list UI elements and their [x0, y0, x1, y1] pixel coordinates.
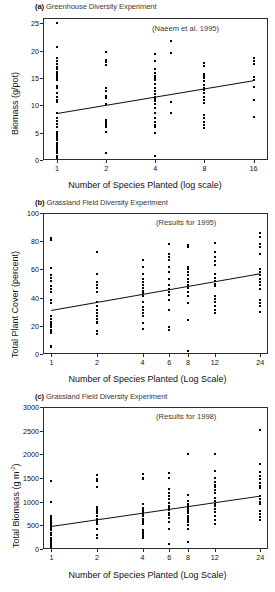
data-point — [96, 251, 98, 253]
data-point — [187, 271, 189, 273]
data-point — [142, 284, 144, 286]
panel-b-title: (b) Grassland Field Diversity Experiment — [35, 198, 168, 207]
panel-b-xtick — [215, 354, 216, 357]
data-point — [56, 126, 58, 128]
data-point — [214, 481, 216, 483]
data-point — [96, 330, 98, 332]
data-point — [187, 494, 189, 496]
data-point — [154, 100, 156, 102]
data-point — [168, 291, 170, 293]
data-point — [214, 470, 216, 472]
data-point — [50, 332, 52, 334]
data-point — [214, 497, 216, 499]
data-point — [50, 346, 52, 348]
data-point — [168, 329, 170, 331]
data-point — [105, 90, 107, 92]
data-point — [168, 521, 170, 523]
data-point — [105, 87, 107, 89]
data-point — [154, 83, 156, 85]
data-point — [170, 40, 172, 42]
panel-c-plot-area — [43, 407, 268, 549]
data-point — [142, 315, 144, 317]
data-point — [214, 298, 216, 300]
panel-b-xtick — [97, 354, 98, 357]
data-point — [187, 281, 189, 283]
data-point — [168, 266, 170, 268]
panel-a-xtick-label: 4 — [143, 164, 167, 173]
data-point — [96, 512, 98, 514]
data-point — [214, 305, 216, 307]
panel-b-ytick-label: 40 — [1, 294, 39, 303]
data-point — [105, 152, 107, 154]
data-point — [168, 294, 170, 296]
data-point — [187, 512, 189, 514]
data-point — [168, 502, 170, 504]
data-point — [203, 127, 205, 129]
data-point — [96, 333, 98, 335]
data-point — [96, 528, 98, 530]
panel-b-plot-area — [43, 213, 268, 354]
data-point — [214, 489, 216, 491]
panel-c-ylabel-tail: ) — [11, 463, 21, 466]
data-point — [214, 264, 216, 266]
panel-a-xtick-label: 2 — [94, 164, 118, 173]
data-point — [253, 63, 255, 65]
panel-a-ytick — [40, 78, 43, 79]
data-point — [56, 63, 58, 65]
data-point — [253, 86, 255, 88]
data-point — [105, 126, 107, 128]
data-point — [56, 22, 58, 24]
data-point — [96, 315, 98, 317]
data-point — [259, 463, 261, 465]
panel-b-ytick — [40, 354, 43, 355]
data-point — [142, 523, 144, 525]
data-point — [50, 321, 52, 323]
data-point — [56, 79, 58, 81]
data-point — [259, 498, 261, 500]
data-point — [168, 477, 170, 479]
data-point — [50, 267, 52, 269]
data-point — [214, 484, 216, 486]
data-point — [96, 309, 98, 311]
data-point — [50, 288, 52, 290]
data-point — [203, 62, 205, 64]
panel-c-ytick-label: 500 — [1, 521, 39, 530]
panel-c-xtick — [260, 549, 261, 552]
panel-b-ytick-label: 0 — [1, 350, 39, 359]
data-point — [142, 309, 144, 311]
panel-b-ytick-label: 80 — [1, 237, 39, 246]
data-point — [50, 529, 52, 531]
panel-b-ytick — [40, 213, 43, 214]
panel-a-title-text: Greenhouse Diversity Experiment — [46, 2, 156, 11]
figure-container: (a) Greenhouse Diversity Experiment (Nae… — [0, 0, 275, 592]
data-point — [259, 278, 261, 280]
data-point — [203, 65, 205, 67]
data-point — [168, 543, 170, 545]
data-point — [168, 253, 170, 255]
panel-c-ytick-label: 3000 — [1, 403, 39, 412]
data-point — [259, 429, 261, 431]
panel-c-xtick — [215, 549, 216, 552]
data-point — [203, 121, 205, 123]
data-point — [187, 519, 189, 521]
panel-b-xtick — [169, 354, 170, 357]
data-point — [96, 287, 98, 289]
data-point — [142, 515, 144, 517]
data-point — [187, 521, 189, 523]
panel-c-xtick-label: 2 — [85, 553, 109, 562]
data-point — [56, 87, 58, 89]
data-point — [214, 273, 216, 275]
panel-a-ytick-label: 0 — [1, 156, 39, 165]
data-point — [142, 273, 144, 275]
panel-b-xtick-label: 12 — [203, 358, 227, 367]
data-point — [259, 246, 261, 248]
data-point — [214, 486, 216, 488]
data-point — [154, 72, 156, 74]
data-point — [154, 112, 156, 114]
data-point — [259, 487, 261, 489]
data-point — [214, 277, 216, 279]
panel-b-label: (b) — [35, 198, 44, 207]
data-point — [168, 299, 170, 301]
data-point — [253, 60, 255, 62]
data-point — [142, 259, 144, 261]
